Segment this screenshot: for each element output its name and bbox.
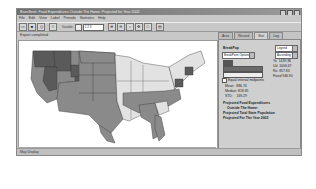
full-extent-icon: □	[146, 24, 148, 29]
pan-icon: ✥	[137, 24, 140, 29]
menu-edit[interactable]: Edit	[29, 15, 35, 21]
panel-tabs: Area Record Stat Log	[218, 32, 283, 39]
variable-input[interactable]: 1 2 3	[83, 24, 104, 31]
stat-right-1: Ud 1006.67	[273, 64, 292, 68]
open-button[interactable]: ▭	[19, 23, 27, 31]
menu-periods[interactable]: Periods	[64, 15, 76, 21]
status-bar: Map Display	[17, 148, 301, 155]
zoom-in-icon: ⊕	[110, 24, 113, 29]
zoom-out-button[interactable]: ⊖	[117, 23, 125, 31]
save-button[interactable]: ■	[28, 23, 36, 31]
save-icon: ■	[31, 24, 33, 29]
stat-tab-body: BreakPop Legend BreakPoint Options Ascen…	[218, 39, 301, 150]
info-button[interactable]: ▤	[156, 23, 164, 31]
print-icon: ⎙	[40, 24, 43, 29]
equal-interval-checkbox-row[interactable]: Equal interval midpoints	[222, 78, 264, 83]
stat-right-3: Fixed 946.90	[273, 74, 293, 78]
menu-file[interactable]: File	[19, 15, 25, 21]
map-display[interactable]	[18, 40, 218, 149]
menu-statistics[interactable]: Statistics	[80, 15, 94, 21]
toolbar: ▭ ■ ⎙ ≡ Variable: 1 2 3 ⊕ ⊖ ⌕ ✥ □ ▤	[17, 22, 301, 32]
stat-right-0: Ye 1439.36	[273, 59, 291, 63]
window-title: BrainSeek: Food Expenditures Outside The…	[20, 10, 139, 14]
stat-median: Median: 818.85	[225, 89, 248, 93]
zoom-select-button[interactable]: ⌕	[126, 23, 134, 31]
stats-panel: Area Record Stat Log BreakPop Legend Bre…	[218, 32, 301, 150]
menu-help[interactable]: Help	[98, 15, 105, 21]
us-choropleth-map[interactable]	[19, 41, 217, 148]
zoom-out-icon: ⊖	[119, 24, 122, 29]
equal-interval-checkbox[interactable]	[222, 78, 227, 83]
open-icon: ▭	[21, 24, 25, 29]
export-status: Export completed	[18, 32, 218, 39]
variable-spinner[interactable]	[75, 24, 82, 31]
full-extent-button[interactable]: □	[144, 23, 152, 31]
menu-view[interactable]: View	[39, 15, 47, 21]
stat-mean: Mean: 886.74	[225, 84, 247, 88]
tab-record[interactable]: Record	[234, 32, 253, 39]
tab-area[interactable]: Area	[218, 32, 233, 39]
stat-std: STD: 169.29	[225, 94, 247, 98]
zoom-in-button[interactable]: ⊕	[108, 23, 116, 31]
app-window: BrainSeek: Food Expenditures Outside The…	[16, 8, 302, 156]
tab-log[interactable]: Log	[269, 32, 283, 39]
menu-bar: File Edit View Label Periods Statistics …	[17, 15, 301, 21]
description-line-2: Outside The Home:	[227, 106, 258, 110]
variable-label: Variable:	[62, 25, 74, 29]
description-line-1: Projected Food Expenditures	[223, 101, 270, 105]
description-line-3: Projected Total State Population	[223, 111, 275, 115]
order-select[interactable]: Ascending	[275, 52, 298, 59]
layers-icon: ≡	[52, 24, 54, 29]
break-heading: BreakPop	[223, 46, 239, 50]
menu-label[interactable]: Label	[51, 15, 60, 21]
layers-button[interactable]: ≡	[49, 23, 57, 31]
legend-select[interactable]: Legend	[275, 45, 298, 52]
info-icon: ▤	[158, 24, 162, 29]
breakpoint-select[interactable]: BreakPoint Options	[222, 52, 255, 59]
zoom-select-icon: ⌕	[129, 24, 131, 29]
print-button[interactable]: ⎙	[37, 23, 45, 31]
description-line-4: Projected For The Year 2002	[223, 116, 268, 120]
stat-right-2: Ro 857.83	[273, 69, 290, 73]
pan-button[interactable]: ✥	[135, 23, 143, 31]
